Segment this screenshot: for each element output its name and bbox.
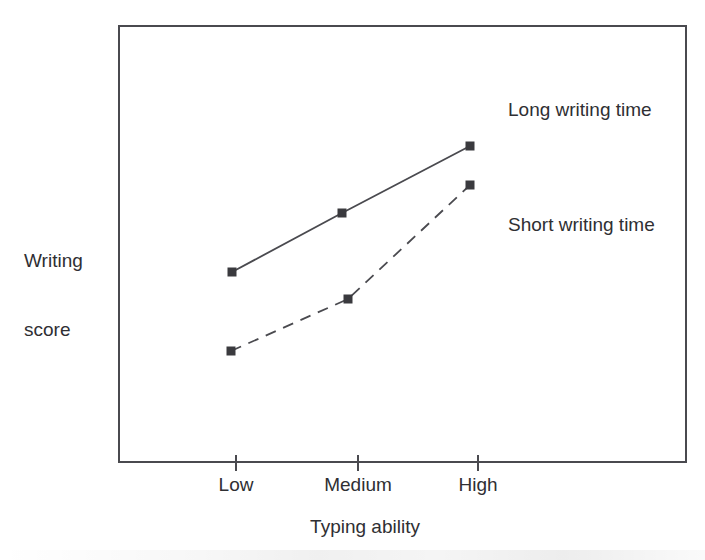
series-label-long-writing-time: Long writing time <box>508 98 652 121</box>
writing-score-figure: Writing score Typing ability Low Medium … <box>0 0 705 560</box>
scan-artifact <box>0 550 705 560</box>
plot-frame <box>118 25 687 463</box>
x-tick-label-high: High <box>438 474 518 496</box>
y-axis-title: Writing score <box>24 203 116 387</box>
x-tick-label-low: Low <box>196 474 276 496</box>
y-axis-title-line1: Writing <box>24 249 116 272</box>
series-label-short-writing-time: Short writing time <box>508 213 655 236</box>
x-tick-label-medium: Medium <box>308 474 408 496</box>
y-axis-title-line2: score <box>24 318 116 341</box>
x-axis-title: Typing ability <box>255 515 475 538</box>
